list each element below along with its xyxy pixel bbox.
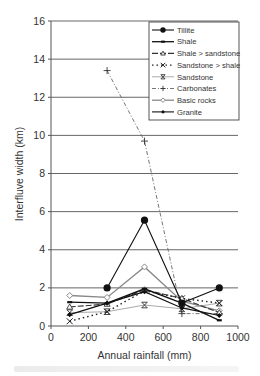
legend-label: Basic rocks bbox=[177, 96, 216, 105]
filled-circle-marker-icon bbox=[216, 284, 223, 291]
filled-circle-marker-icon bbox=[141, 217, 148, 224]
filled-circle-marker-icon bbox=[160, 27, 165, 32]
legend: TilliteShaleShale > sandstoneSandstone >… bbox=[149, 22, 240, 120]
x-tick-label: 1000 bbox=[226, 331, 250, 343]
plus-marker-icon bbox=[141, 138, 148, 145]
y-tick-label: 6 bbox=[39, 205, 45, 217]
legend-label: Carbonates bbox=[177, 84, 216, 93]
x-axis-label: Annual rainfall (mm) bbox=[98, 349, 192, 361]
x-tick-label: 800 bbox=[192, 331, 210, 343]
y-tick-label: 8 bbox=[39, 167, 45, 179]
series-tillite bbox=[104, 217, 223, 307]
open-diamond-marker-icon bbox=[67, 293, 73, 299]
x-tick-label: 200 bbox=[80, 331, 98, 343]
x-marker-icon bbox=[67, 318, 73, 324]
y-tick-label: 0 bbox=[39, 320, 45, 332]
y-tick-label: 4 bbox=[39, 243, 45, 255]
x-tick-label: 600 bbox=[154, 331, 172, 343]
x-tick-label: 400 bbox=[117, 331, 135, 343]
filled-circle-marker-icon bbox=[178, 300, 185, 307]
legend-label: Sandstone bbox=[177, 73, 213, 82]
legend-label: Sandstone > shale bbox=[177, 61, 240, 70]
y-tick-label: 12 bbox=[33, 91, 45, 103]
legend-label: Shale bbox=[177, 37, 196, 46]
y-tick-label: 10 bbox=[33, 129, 45, 141]
plus-marker-icon bbox=[104, 67, 111, 74]
legend-label: Tillite bbox=[177, 26, 194, 35]
figure-caption-cropped bbox=[14, 366, 239, 372]
y-tick-label: 16 bbox=[33, 15, 45, 27]
y-tick-label: 2 bbox=[39, 281, 45, 293]
y-axis-label: Interfluve width (km) bbox=[13, 127, 25, 222]
interfluve-width-chart: 024681012141602004006008001000 TilliteSh… bbox=[0, 0, 260, 376]
x-tick-label: 0 bbox=[48, 331, 54, 343]
y-tick-label: 14 bbox=[33, 53, 45, 65]
filled-circle-marker-icon bbox=[104, 284, 111, 291]
legend-label: Shale > sandstone bbox=[177, 49, 240, 58]
legend-label: Granite bbox=[177, 108, 202, 117]
